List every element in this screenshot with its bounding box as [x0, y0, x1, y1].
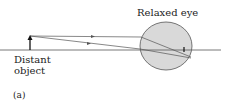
panel-label: (a)	[13, 90, 25, 100]
object-label-2: object	[14, 65, 45, 76]
eye-diagram: Relaxed eye Distant object (a)	[0, 0, 235, 107]
ray-arrow-icon	[91, 35, 95, 38]
ray-arrow-icon	[87, 42, 91, 45]
eye-ball	[140, 22, 192, 70]
object-label-1: Distant	[14, 54, 51, 65]
eye-label: Relaxed eye	[137, 7, 198, 18]
